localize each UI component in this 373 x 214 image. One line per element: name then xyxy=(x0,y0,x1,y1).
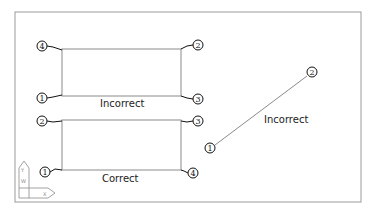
point-marker-1: 1 xyxy=(40,167,50,177)
leader-line xyxy=(181,170,188,173)
svg-text:1: 1 xyxy=(42,168,47,177)
svg-text:2: 2 xyxy=(195,41,200,50)
point-marker-2: 2 xyxy=(37,116,47,126)
point-marker-1: 1 xyxy=(205,143,215,153)
point-marker-2: 2 xyxy=(193,40,203,50)
upper-rectangle-label: Incorrect xyxy=(100,98,144,109)
upper-rectangle xyxy=(62,49,181,96)
point-marker-4: 4 xyxy=(37,41,47,51)
point-marker-1: 1 xyxy=(37,93,47,103)
point-marker-4: 4 xyxy=(188,168,198,178)
leader-line xyxy=(47,121,62,122)
leader-line xyxy=(181,121,193,122)
svg-text:4: 4 xyxy=(190,169,195,178)
svg-text:2: 2 xyxy=(39,117,44,126)
leader-line xyxy=(181,45,193,49)
svg-text:1: 1 xyxy=(39,94,44,103)
point-marker-3: 3 xyxy=(193,116,203,126)
svg-text:2: 2 xyxy=(309,68,314,77)
ucs-w-label: W xyxy=(21,178,26,184)
diagram-canvas: 4 2 1 3 Incorrect 2 3 1 4 Correct 1 2 In… xyxy=(0,0,373,214)
ucs-x-label: X xyxy=(43,191,47,197)
diagonal-line xyxy=(215,76,307,145)
diagonal-line-label: Incorrect xyxy=(264,114,308,125)
point-marker-3: 3 xyxy=(193,94,203,104)
ucs-icon: Y W X xyxy=(19,161,55,198)
ucs-y-label: Y xyxy=(20,167,25,173)
svg-text:3: 3 xyxy=(195,95,200,104)
diagonal-line-group: 1 2 Incorrect xyxy=(205,67,317,153)
leader-line xyxy=(47,95,62,98)
svg-text:4: 4 xyxy=(39,42,44,51)
svg-text:1: 1 xyxy=(207,144,212,153)
leader-line xyxy=(181,96,193,99)
upper-rectangle-group: 4 2 1 3 Incorrect xyxy=(37,40,203,109)
leader-line xyxy=(50,169,62,172)
lower-rectangle-label: Correct xyxy=(102,173,139,184)
svg-text:3: 3 xyxy=(195,117,200,126)
lower-rectangle-group: 2 3 1 4 Correct xyxy=(37,116,203,184)
lower-rectangle xyxy=(62,120,181,170)
leader-line xyxy=(47,46,62,50)
point-marker-2: 2 xyxy=(307,67,317,77)
